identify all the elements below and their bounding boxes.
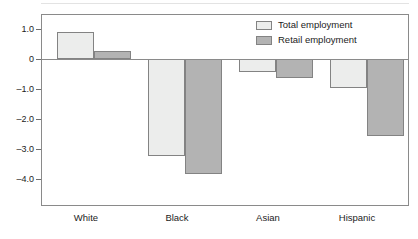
- x-axis-label-black: Black: [165, 212, 188, 223]
- legend-label-retail-employment: Retail employment: [278, 35, 357, 45]
- y-axis-label-5: –3.0: [0, 145, 34, 154]
- y-axis-label-4: –2.0: [0, 115, 34, 124]
- x-axis-label-hispanic: Hispanic: [339, 212, 375, 223]
- bar-hispanic-retail: [367, 59, 404, 136]
- legend-label-total-employment: Total employment: [278, 20, 352, 30]
- bar-asian-total: [239, 59, 276, 72]
- legend-item-retail-employment: Retail employment: [256, 34, 357, 46]
- scan-artifact-line: [41, 3, 409, 4]
- y-axis: 1.0 0 –1.0 –2.0 –3.0 –4.0: [0, 0, 34, 239]
- bar-white-total: [57, 32, 94, 59]
- x-axis-label-asian: Asian: [256, 212, 280, 223]
- bar-black-total: [148, 59, 185, 156]
- legend-swatch-total-employment: [256, 21, 272, 30]
- legend-item-total-employment: Total employment: [256, 19, 357, 31]
- chart-legend: Total employment Retail employment: [256, 19, 357, 46]
- zero-baseline: [41, 59, 409, 60]
- bar-black-retail: [185, 59, 222, 174]
- y-axis-label-1: 1.0: [0, 25, 34, 34]
- bar-asian-retail: [276, 59, 313, 78]
- chart-screenshot: 1.0 0 –1.0 –2.0 –3.0 –4.0 White Black As…: [0, 0, 418, 239]
- bar-hispanic-total: [330, 59, 367, 88]
- y-axis-label-2: 0: [0, 55, 34, 64]
- y-axis-label-6: –4.0: [0, 175, 34, 184]
- legend-swatch-retail-employment: [256, 36, 272, 45]
- bar-white-retail: [94, 51, 131, 59]
- x-axis-label-white: White: [74, 212, 98, 223]
- y-axis-label-3: –1.0: [0, 85, 34, 94]
